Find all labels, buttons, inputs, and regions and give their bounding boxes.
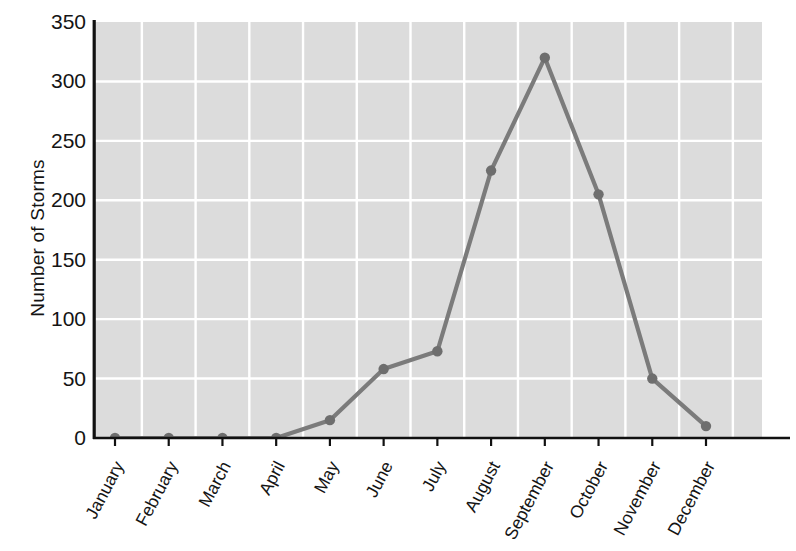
x-axis-tick-labels: JanuaryFebruaryMarchAprilMayJuneJulyAugu…	[0, 0, 796, 551]
x-tick-label: January	[37, 459, 128, 551]
storm-line-chart: Number of Storms 050100150200250300350 J…	[0, 0, 796, 551]
